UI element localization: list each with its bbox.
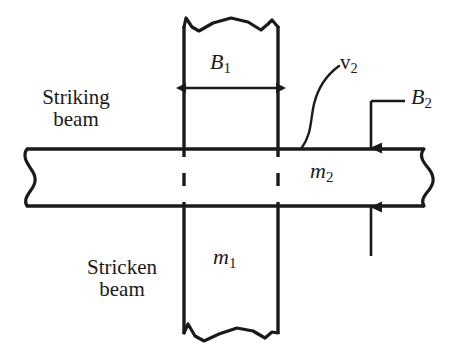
m2-symbol: m <box>310 158 326 183</box>
m1-mass-label: m1 <box>213 245 236 272</box>
v2-symbol: v <box>340 50 351 74</box>
b1-dimension-label: B1 <box>210 50 231 77</box>
b2-subscript: 2 <box>424 95 431 111</box>
horizontal-beam-right-break-line <box>421 149 433 206</box>
vertical-beam-bottom-break-line <box>184 324 278 341</box>
striking-beam-label-line2: beam <box>14 108 138 130</box>
striking-beam-label: Striking beam <box>14 86 138 131</box>
b1-symbol: B <box>210 49 223 74</box>
beam-impact-diagram: Striking beam Stricken beam B1 B2 v2 m1 … <box>0 0 453 359</box>
m1-subscript: 1 <box>229 255 236 271</box>
vertical-beam-top-break-line <box>184 18 278 31</box>
v2-subscript: 2 <box>351 60 358 76</box>
v2-velocity-label: v2 <box>340 51 358 76</box>
b1-subscript: 1 <box>223 60 230 76</box>
stricken-beam-label-line2: beam <box>60 278 184 300</box>
stricken-beam-label-line1: Stricken <box>60 256 184 278</box>
b2-dimension-label: B2 <box>411 85 432 112</box>
horizontal-beam-left-break-line <box>25 149 35 206</box>
v2-leader-curve <box>301 66 339 149</box>
striking-beam-label-line1: Striking <box>14 86 138 108</box>
stricken-beam-label: Stricken beam <box>60 256 184 301</box>
b2-symbol: B <box>411 84 424 109</box>
m2-subscript: 2 <box>326 169 333 185</box>
m1-symbol: m <box>213 244 229 269</box>
m2-mass-label: m2 <box>310 159 333 186</box>
